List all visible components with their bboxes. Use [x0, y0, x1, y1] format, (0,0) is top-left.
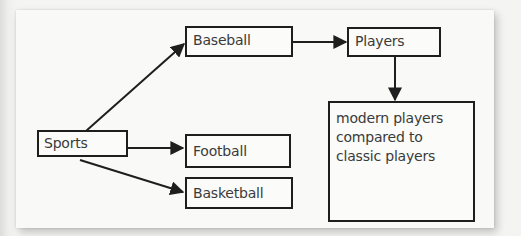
node-baseball-label: Baseball	[193, 32, 251, 48]
node-players-label: Players	[355, 33, 404, 49]
node-players: Players	[347, 27, 441, 57]
node-football: Football	[185, 134, 291, 168]
node-comparison: modern players compared to classic playe…	[328, 101, 475, 222]
node-comparison-line-3: classic players	[336, 147, 467, 166]
node-basketball: Basketball	[185, 177, 293, 209]
edge-sports-basketball	[80, 160, 183, 192]
node-comparison-line-2: compared to	[336, 128, 467, 147]
diagram-canvas: Sports Baseball Football Basketball Play…	[0, 0, 521, 236]
node-sports-label: Sports	[44, 135, 88, 151]
node-baseball: Baseball	[185, 26, 293, 57]
edge-sports-baseball	[86, 44, 184, 131]
node-sports: Sports	[37, 130, 128, 157]
node-basketball-label: Basketball	[193, 185, 263, 201]
node-comparison-line-1: modern players	[336, 109, 467, 128]
node-football-label: Football	[193, 143, 247, 159]
